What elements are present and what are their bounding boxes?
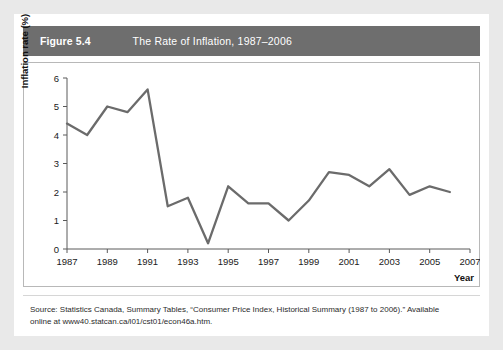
chart-plot-area: Inflation rate (%) 012345619871989199119… bbox=[23, 62, 480, 287]
x-tick-label: 1989 bbox=[97, 256, 118, 267]
y-tick-label: 3 bbox=[54, 158, 59, 169]
x-tick-label: 1999 bbox=[298, 256, 319, 267]
x-tick-label: 2001 bbox=[339, 256, 360, 267]
y-tick-label: 0 bbox=[54, 244, 59, 255]
x-tick-label: 1987 bbox=[56, 256, 77, 267]
x-tick-label: 1997 bbox=[258, 256, 279, 267]
source-divider bbox=[23, 295, 480, 296]
x-tick-label: 2007 bbox=[459, 256, 480, 267]
y-tick-label: 6 bbox=[54, 73, 59, 84]
y-tick-label: 5 bbox=[54, 101, 59, 112]
figure-number: Figure 5.4 bbox=[40, 35, 91, 47]
x-tick-label: 1995 bbox=[218, 256, 239, 267]
figure-title: The Rate of Inflation, 1987–2006 bbox=[133, 35, 292, 47]
x-tick-label: 2005 bbox=[419, 256, 440, 267]
x-tick-label: 1993 bbox=[177, 256, 198, 267]
x-axis-title: Year bbox=[454, 272, 474, 283]
figure-card: Figure 5.4 The Rate of Inflation, 1987–2… bbox=[14, 14, 489, 336]
y-tick-label: 1 bbox=[54, 215, 59, 226]
y-tick-label: 2 bbox=[54, 187, 59, 198]
source-note: Source: Statistics Canada, Summary Table… bbox=[30, 304, 475, 327]
x-tick-label: 1991 bbox=[137, 256, 158, 267]
figure-header-bar: Figure 5.4 The Rate of Inflation, 1987–2… bbox=[23, 26, 480, 56]
inflation-rate-line bbox=[67, 89, 450, 243]
source-line-2: online at www40.statcan.ca/l01/cst01/eco… bbox=[30, 316, 475, 328]
x-tick-label: 2003 bbox=[379, 256, 400, 267]
inflation-line-chart: 0123456198719891991199319951997199920012… bbox=[23, 62, 480, 287]
source-line-1: Source: Statistics Canada, Summary Table… bbox=[30, 304, 475, 316]
y-tick-label: 4 bbox=[54, 130, 59, 141]
